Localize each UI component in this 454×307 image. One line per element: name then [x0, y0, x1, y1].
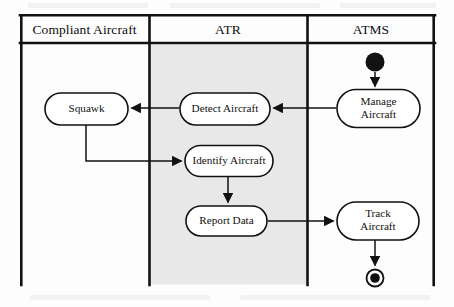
final-node[interactable]	[367, 270, 384, 287]
action-node-squawk[interactable]	[45, 93, 128, 125]
action-node-report-data[interactable]	[186, 206, 267, 236]
action-node-identify-aircraft[interactable]	[185, 146, 273, 177]
action-node-manage-aircraft[interactable]	[337, 90, 420, 128]
action-node-track-aircraft[interactable]	[337, 202, 419, 240]
lane-title-compliant-aircraft: Compliant Aircraft	[20, 22, 149, 38]
diagram-canvas	[0, 0, 454, 307]
activity-diagram: Compliant Aircraft ATR ATMS Squawk Detec…	[0, 0, 454, 307]
lane-title-atms: ATMS	[307, 22, 435, 38]
page-canvas: Compliant Aircraft ATR ATMS Squawk Detec…	[0, 0, 454, 307]
initial-node[interactable]	[366, 53, 385, 72]
action-node-detect-aircraft[interactable]	[180, 93, 270, 125]
lane-title-atr: ATR	[149, 22, 307, 38]
